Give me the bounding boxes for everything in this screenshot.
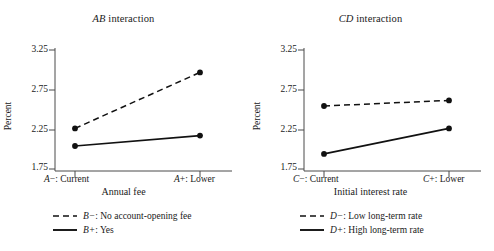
x-tick-c-minus-rest: −: Current [299,174,338,184]
legend-d-plus-rest: : High long-term rate [343,225,423,235]
interaction-plots-figure: AB interaction Percent 3.25 2.75 2.25 1.… [0,0,494,251]
legend-label-d-minus: D−: Low long-term rate [330,211,422,221]
series-line-d-minus [324,100,449,106]
x-tick-label-a-minus: A−: Current [44,174,89,184]
legend-b-plus-rest: : Yes [95,225,114,235]
data-point-b-plus-0 [72,143,78,149]
legend-solid-line-icon [52,224,78,236]
panel-ab-interaction: AB interaction Percent 3.25 2.75 2.25 1.… [0,0,247,251]
data-point-d-minus-0 [321,103,327,109]
legend-b-plus-factor: B+ [83,225,95,235]
x-tick-c-plus-rest: +: Lower [429,174,464,184]
legend-label-b-minus: B−: No account-opening fee [83,211,192,221]
legend-b-minus-rest: : No account-opening fee [95,211,191,221]
x-tick-a-plus-rest: +: Lower [180,174,215,184]
x-tick-label-a-plus: A+: Lower [174,174,215,184]
legend-item-d-minus: D−: Low long-term rate [247,209,494,223]
data-point-d-minus-1 [446,98,452,104]
legend-item-d-plus: D+: High long-term rate [247,223,494,237]
x-axis-title-right: Initial interest rate [247,186,494,197]
legend-d-minus-rest: : Low long-term rate [343,211,422,221]
legend-d-minus-factor: D− [330,211,343,221]
legend-d-plus-factor: D+ [330,225,343,235]
series-line-d-plus [324,128,449,154]
x-tick-label-c-plus: C+: Lower [423,174,465,184]
legend-solid-line-icon [299,224,325,236]
legend-item-b-plus: B+: Yes [0,223,247,237]
legend-ab: B−: No account-opening fee B+: Yes [0,209,247,237]
x-axis-title-left: Annual fee [0,186,247,197]
panel-cd-interaction: CD interaction Percent 3.25 2.75 2.25 1.… [247,0,494,251]
series-line-b-minus [75,72,200,128]
data-point-d-plus-1 [446,125,452,131]
x-tick-label-c-minus: C−: Current [293,174,339,184]
legend-dashed-line-icon [299,210,325,222]
x-tick-a-minus-rest: −: Current [50,174,89,184]
data-point-b-plus-1 [197,133,203,139]
series-line-b-plus [75,136,200,146]
legend-cd: D−: Low long-term rate D+: High long-ter… [247,209,494,237]
legend-label-b-plus: B+: Yes [83,225,114,235]
data-point-d-plus-0 [321,151,327,157]
data-point-b-minus-0 [72,125,78,131]
legend-b-minus-factor: B− [83,211,95,221]
legend-dashed-line-icon [52,210,78,222]
data-point-b-minus-1 [197,70,203,76]
legend-item-b-minus: B−: No account-opening fee [0,209,247,223]
legend-label-d-plus: D+: High long-term rate [330,225,424,235]
